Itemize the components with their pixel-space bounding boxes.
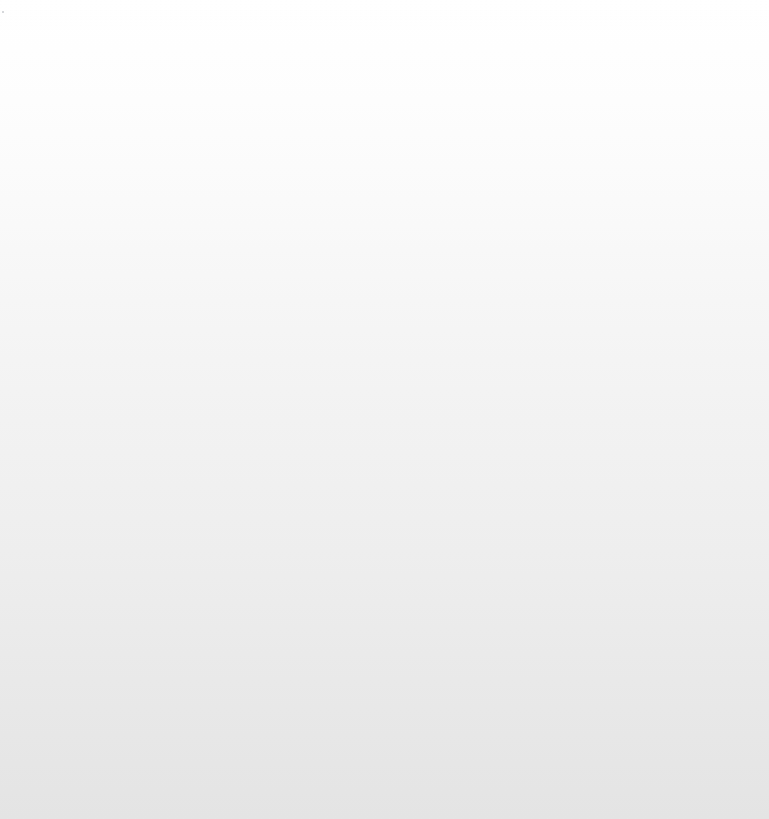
empty-content-area xyxy=(0,0,769,819)
app-screen xyxy=(0,0,769,819)
